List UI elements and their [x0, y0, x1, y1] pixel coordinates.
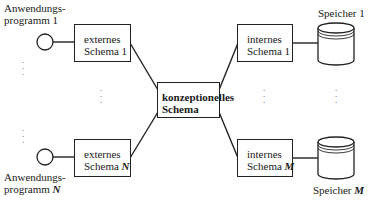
connector-konz-intm — [219, 112, 238, 158]
conceptual-schema-box: konzeptionelles Schema — [157, 82, 220, 118]
external-schemas-ellipsis: ··· — [99, 88, 103, 106]
three-schema-architecture-diagram: Anwendungs- programm 1 Anwendungs- progr… — [0, 0, 370, 203]
external-schema-n-box: externes Schema N — [74, 139, 131, 177]
application-1-label: Anwendungs- programm 1 — [4, 3, 66, 26]
internal-schema-1-box: internes Schema 1 — [237, 24, 293, 62]
applications-ellipsis-lower: ··· — [21, 128, 25, 146]
storage-1-label: Speicher 1 — [318, 8, 365, 20]
application-n-label: Anwendungs- programm N — [4, 172, 66, 195]
storage-m-cylinder-icon — [318, 137, 354, 179]
applications-ellipsis: ··· — [21, 60, 25, 78]
application-n-node — [37, 149, 53, 165]
connector-konz-int1 — [219, 43, 238, 90]
internal-schema-m-box: internes Schema M — [237, 139, 293, 177]
internal-schemas-ellipsis: ··· — [262, 88, 266, 106]
external-schema-1-box: externes Schema 1 — [74, 24, 131, 62]
connector-extn-konz — [130, 112, 158, 158]
storage-1-cylinder-icon — [318, 23, 354, 65]
storages-ellipsis: ··· — [334, 88, 338, 106]
storage-m-label: Speicher M — [313, 185, 364, 197]
connector-ext1-konz — [130, 43, 158, 90]
application-1-node — [37, 34, 53, 50]
